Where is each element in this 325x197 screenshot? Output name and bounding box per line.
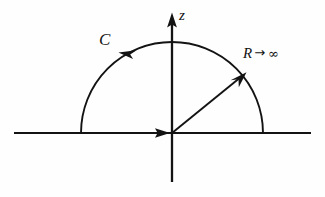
figure-canvas: z C R→∞ <box>0 0 325 197</box>
right-arrow-icon: → <box>254 45 265 60</box>
radius-symbol: R <box>243 45 252 61</box>
radius-limit-label: R→∞ <box>243 46 279 61</box>
contour-label: C <box>99 31 110 48</box>
radius-vector-arrowhead-icon <box>231 72 247 87</box>
contour-diagram <box>0 0 325 197</box>
infinity-symbol: ∞ <box>268 46 279 61</box>
vertical-axis-label: z <box>179 8 185 23</box>
radius-vector-line <box>172 77 242 134</box>
